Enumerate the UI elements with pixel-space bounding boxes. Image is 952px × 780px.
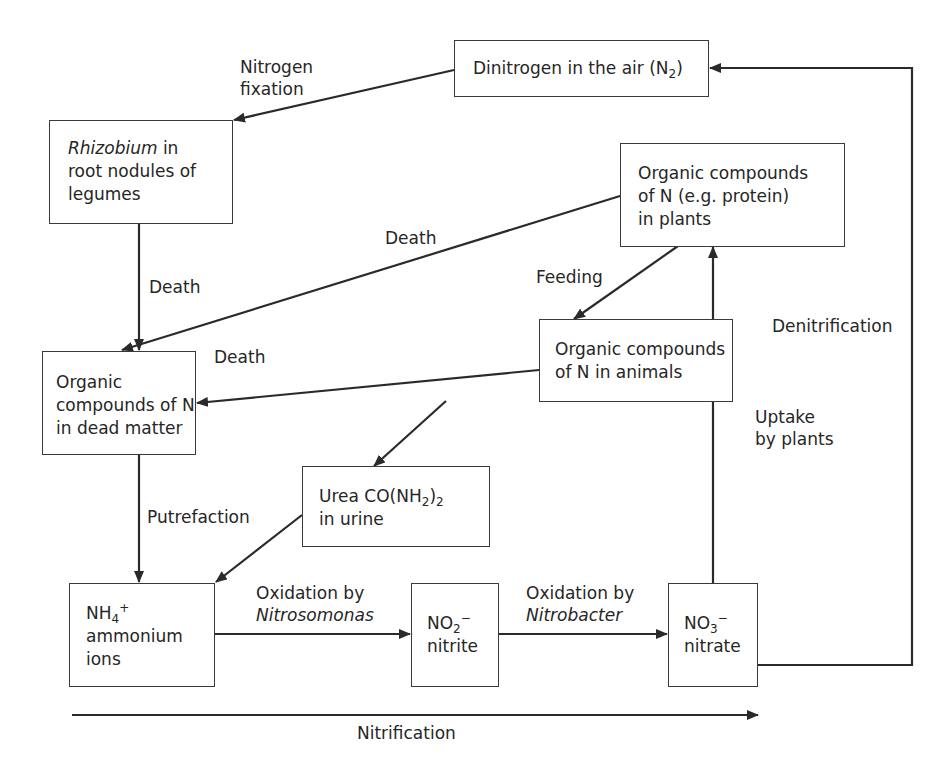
node-urea: Urea CO(NH2)2 in urine (302, 466, 490, 547)
label-nitrification: Nitrification (357, 722, 456, 744)
label-denitrification: Denitrification (772, 315, 892, 337)
node-dead-matter-label: Organic compounds of N in dead matter (56, 371, 195, 440)
node-plants: Organic compounds of N (e.g. protein) in… (620, 143, 845, 247)
label-death-plants: Death (385, 227, 436, 249)
node-ammonium: NH4+ ammonium ions (69, 583, 215, 687)
node-dinitrogen: Dinitrogen in the air (N2) (454, 40, 709, 97)
label-oxidation-nitrobacter: Oxidation by Nitrobacter (526, 582, 634, 626)
node-rhizobium: Rhizobium in root nodules of legumes (49, 120, 233, 224)
arrow-death-animals (197, 370, 539, 403)
node-nitrite-label: NO2− nitrite (427, 612, 478, 658)
node-animals-label: Organic compounds of N in animals (555, 338, 725, 384)
node-nitrate: NO3− nitrate (668, 583, 758, 687)
node-animals: Organic compounds of N in animals (539, 319, 733, 402)
node-urea-label: Urea CO(NH2)2 in urine (319, 485, 444, 531)
node-dead-matter: Organic compounds of N in dead matter (42, 351, 196, 455)
node-ammonium-label: NH4+ ammonium ions (86, 602, 183, 671)
label-nitrogen-fixation: Nitrogen fixation (240, 56, 313, 100)
label-death-animals: Death (214, 346, 265, 368)
node-plants-label: Organic compounds of N (e.g. protein) in… (638, 162, 808, 231)
node-dinitrogen-label: Dinitrogen in the air (N2) (473, 57, 683, 80)
label-death-rhizobium: Death (149, 276, 200, 298)
node-nitrite: NO2− nitrite (411, 583, 499, 687)
label-uptake: Uptake by plants (755, 406, 833, 450)
node-rhizobium-label: Rhizobium in root nodules of legumes (68, 137, 196, 206)
label-feeding: Feeding (536, 266, 603, 288)
label-putrefaction: Putrefaction (147, 506, 250, 528)
node-nitrate-label: NO3− nitrate (684, 612, 741, 658)
label-oxidation-nitrosomonas: Oxidation by Nitrosomonas (256, 582, 374, 626)
arrow-animals-to-urea (374, 401, 446, 466)
